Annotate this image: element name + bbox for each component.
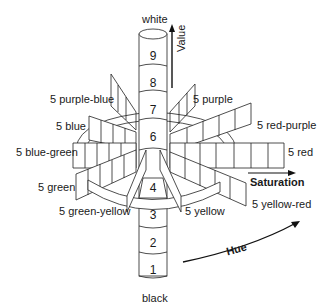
value-6: 6 (139, 131, 167, 143)
hue-label-yellow-red: 5 yellow-red (252, 198, 311, 210)
value-4: 4 (139, 182, 167, 194)
value-3: 3 (139, 209, 167, 221)
hue-label-red-purple: 5 red-purple (257, 119, 316, 131)
hue-label-red: 5 red (288, 146, 313, 158)
hue-chart-purple-blue (111, 74, 136, 130)
hue-label-purple: 5 purple (193, 93, 233, 105)
hue-label-yellow: 5 yellow (185, 205, 225, 217)
hue-label-green: 5 green (38, 181, 75, 193)
value-axis-label: Value (175, 25, 187, 52)
hue-label-blue-green: 5 blue-green (16, 146, 78, 158)
hue-label-blue: 5 blue (56, 120, 86, 132)
saturation-axis-label: Saturation (250, 176, 304, 188)
value-7: 7 (139, 104, 167, 116)
value-9: 9 (139, 50, 167, 62)
white-label: white (142, 13, 168, 25)
black-label: black (142, 292, 168, 304)
value-1: 1 (139, 264, 167, 276)
hue-label-purple-blue: 5 purple-blue (50, 93, 114, 105)
value-2: 2 (139, 237, 167, 249)
hue-label-green-yellow: 5 green-yellow (59, 205, 131, 217)
value-8: 8 (139, 77, 167, 89)
